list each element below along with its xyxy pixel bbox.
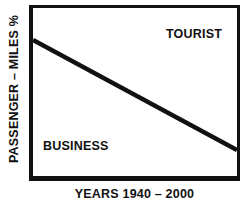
y-axis-title-text: PASSENGER – MILES %: [7, 15, 21, 163]
region-label-business: BUSINESS: [43, 139, 109, 153]
chart-figure: PASSENGER – MILES % TOURIST BUSINESS YEA…: [0, 0, 250, 207]
trend-line: [33, 40, 237, 150]
x-axis-title: YEARS 1940 – 2000: [29, 187, 240, 201]
y-axis-title: PASSENGER – MILES %: [0, 0, 28, 178]
region-label-tourist: TOURIST: [166, 27, 222, 41]
